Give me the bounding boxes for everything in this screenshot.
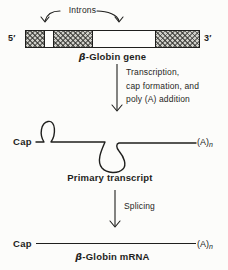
three-prime-label: 3′ [204,33,212,43]
transcription-step-line2: cap formation, and [126,80,199,94]
beta-globin-processing-diagram: Introns 5′ 3′ β-Globin gene Transcriptio… [0,0,228,270]
introns-label: Introns [55,5,110,15]
exon-segment [53,31,93,47]
transcription-step-line3: poly (A) addition [126,93,199,107]
primary-transcript-poly-a-label: (A)n [197,137,213,148]
mrna-line [36,243,196,244]
gene-title: β-Globin gene [25,51,200,62]
exon-segment [155,31,200,47]
primary-transcript-title: Primary transcript [25,172,195,183]
transcription-step-line1: Transcription, [126,66,199,80]
splicing-arrow-down-icon [108,190,122,232]
mrna-cap-label: Cap [13,238,32,249]
transcription-step-text: Transcription, cap formation, and poly (… [126,66,199,107]
splicing-label: Splicing [124,200,155,214]
gene-diagram-bar [25,30,200,48]
mrna-title-rest: -Globin mRNA [82,251,149,262]
intron-segment [93,31,154,47]
mrna-poly-a-label: (A)n [197,239,213,250]
gene-title-rest: -Globin gene [86,51,146,62]
transcription-arrow-down-icon [110,64,124,116]
gene-title-beta: β [79,51,86,62]
exon-segment [26,31,45,47]
primary-transcript-cap-label: Cap [13,136,32,147]
primary-transcript-line [34,116,198,174]
mrna-title: β-Globin mRNA [30,251,195,262]
intron-segment [45,31,53,47]
five-prime-label: 5′ [8,33,16,43]
